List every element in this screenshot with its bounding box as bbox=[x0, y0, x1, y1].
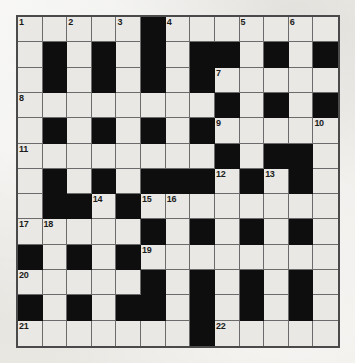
crossword-cell[interactable] bbox=[264, 245, 289, 270]
crossword-cell[interactable]: 9 bbox=[215, 118, 240, 143]
crossword-cell[interactable]: 16 bbox=[166, 194, 191, 219]
crossword-cell[interactable] bbox=[92, 17, 117, 42]
crossword-cell[interactable] bbox=[264, 295, 289, 320]
crossword-cell[interactable] bbox=[190, 194, 215, 219]
crossword-cell[interactable] bbox=[190, 17, 215, 42]
crossword-cell[interactable] bbox=[43, 93, 68, 118]
crossword-cell[interactable] bbox=[92, 270, 117, 295]
crossword-cell[interactable] bbox=[116, 321, 141, 346]
crossword-cell[interactable] bbox=[215, 245, 240, 270]
crossword-cell[interactable] bbox=[166, 42, 191, 67]
crossword-cell[interactable] bbox=[67, 42, 92, 67]
crossword-cell[interactable] bbox=[264, 118, 289, 143]
crossword-cell[interactable] bbox=[289, 321, 314, 346]
crossword-cell[interactable] bbox=[67, 68, 92, 93]
crossword-cell[interactable] bbox=[289, 42, 314, 67]
crossword-cell[interactable] bbox=[116, 270, 141, 295]
crossword-cell[interactable]: 18 bbox=[43, 219, 68, 244]
crossword-cell[interactable] bbox=[264, 219, 289, 244]
crossword-cell[interactable] bbox=[264, 270, 289, 295]
crossword-cell[interactable]: 4 bbox=[166, 17, 191, 42]
crossword-cell[interactable] bbox=[18, 68, 43, 93]
crossword-cell[interactable] bbox=[313, 270, 338, 295]
crossword-cell[interactable] bbox=[264, 321, 289, 346]
crossword-cell[interactable] bbox=[166, 245, 191, 270]
crossword-cell[interactable] bbox=[67, 270, 92, 295]
crossword-cell[interactable] bbox=[289, 68, 314, 93]
crossword-cell[interactable] bbox=[240, 68, 265, 93]
crossword-cell[interactable] bbox=[289, 93, 314, 118]
crossword-cell[interactable] bbox=[18, 169, 43, 194]
crossword-cell[interactable] bbox=[166, 144, 191, 169]
crossword-cell[interactable] bbox=[215, 270, 240, 295]
crossword-cell[interactable]: 1 bbox=[18, 17, 43, 42]
crossword-cell[interactable] bbox=[313, 321, 338, 346]
crossword-cell[interactable] bbox=[313, 245, 338, 270]
crossword-cell[interactable] bbox=[166, 93, 191, 118]
crossword-cell[interactable]: 13 bbox=[264, 169, 289, 194]
crossword-cell[interactable] bbox=[43, 17, 68, 42]
crossword-cell[interactable]: 2 bbox=[67, 17, 92, 42]
crossword-cell[interactable] bbox=[190, 144, 215, 169]
crossword-cell[interactable] bbox=[166, 270, 191, 295]
crossword-cell[interactable] bbox=[92, 93, 117, 118]
crossword-cell[interactable] bbox=[264, 194, 289, 219]
crossword-cell[interactable] bbox=[264, 68, 289, 93]
crossword-cell[interactable] bbox=[215, 295, 240, 320]
crossword-cell[interactable] bbox=[190, 245, 215, 270]
crossword-cell[interactable] bbox=[92, 245, 117, 270]
crossword-cell[interactable] bbox=[67, 144, 92, 169]
crossword-cell[interactable] bbox=[43, 295, 68, 320]
crossword-cell[interactable] bbox=[67, 219, 92, 244]
crossword-cell[interactable]: 10 bbox=[313, 118, 338, 143]
crossword-cell[interactable] bbox=[215, 17, 240, 42]
crossword-cell[interactable] bbox=[289, 194, 314, 219]
crossword-cell[interactable] bbox=[43, 321, 68, 346]
crossword-cell[interactable] bbox=[313, 17, 338, 42]
crossword-cell[interactable] bbox=[18, 118, 43, 143]
crossword-cell[interactable] bbox=[116, 118, 141, 143]
crossword-cell[interactable] bbox=[166, 321, 191, 346]
crossword-cell[interactable] bbox=[43, 144, 68, 169]
crossword-cell[interactable]: 8 bbox=[18, 93, 43, 118]
crossword-cell[interactable] bbox=[166, 68, 191, 93]
crossword-cell[interactable]: 12 bbox=[215, 169, 240, 194]
crossword-cell[interactable] bbox=[289, 245, 314, 270]
crossword-cell[interactable] bbox=[18, 194, 43, 219]
crossword-cell[interactable]: 14 bbox=[92, 194, 117, 219]
crossword-cell[interactable] bbox=[67, 93, 92, 118]
crossword-cell[interactable] bbox=[289, 118, 314, 143]
crossword-cell[interactable] bbox=[240, 144, 265, 169]
crossword-cell[interactable] bbox=[92, 321, 117, 346]
crossword-cell[interactable]: 17 bbox=[18, 219, 43, 244]
crossword-cell[interactable] bbox=[92, 295, 117, 320]
crossword-cell[interactable] bbox=[141, 321, 166, 346]
crossword-cell[interactable]: 20 bbox=[18, 270, 43, 295]
crossword-cell[interactable]: 22 bbox=[215, 321, 240, 346]
crossword-cell[interactable]: 5 bbox=[240, 17, 265, 42]
crossword-cell[interactable] bbox=[240, 42, 265, 67]
crossword-cell[interactable] bbox=[240, 245, 265, 270]
crossword-cell[interactable] bbox=[141, 93, 166, 118]
crossword-cell[interactable]: 21 bbox=[18, 321, 43, 346]
crossword-cell[interactable] bbox=[116, 144, 141, 169]
crossword-cell[interactable] bbox=[313, 144, 338, 169]
crossword-cell[interactable] bbox=[67, 169, 92, 194]
crossword-cell[interactable] bbox=[43, 270, 68, 295]
crossword-cell[interactable] bbox=[240, 321, 265, 346]
crossword-cell[interactable] bbox=[313, 169, 338, 194]
crossword-cell[interactable] bbox=[264, 17, 289, 42]
crossword-cell[interactable] bbox=[116, 68, 141, 93]
crossword-cell[interactable] bbox=[240, 118, 265, 143]
crossword-cell[interactable] bbox=[116, 42, 141, 67]
crossword-cell[interactable]: 7 bbox=[215, 68, 240, 93]
crossword-cell[interactable] bbox=[92, 144, 117, 169]
crossword-grid[interactable]: 12345678910111213141516171819202122 bbox=[18, 17, 338, 346]
crossword-cell[interactable] bbox=[166, 219, 191, 244]
crossword-cell[interactable] bbox=[18, 42, 43, 67]
crossword-cell[interactable] bbox=[215, 194, 240, 219]
crossword-cell[interactable]: 11 bbox=[18, 144, 43, 169]
crossword-cell[interactable]: 3 bbox=[116, 17, 141, 42]
crossword-cell[interactable] bbox=[141, 144, 166, 169]
crossword-cell[interactable]: 6 bbox=[289, 17, 314, 42]
